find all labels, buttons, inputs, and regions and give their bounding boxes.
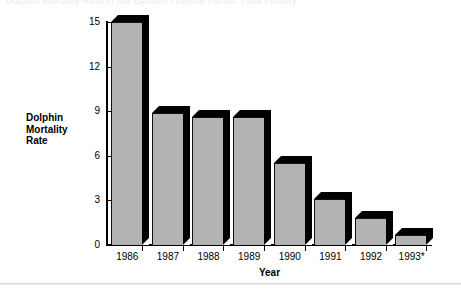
bar-side-face — [386, 211, 393, 245]
bar — [395, 228, 433, 245]
y-tick-label: 0 — [94, 240, 100, 250]
bar-side-face — [264, 110, 271, 245]
bar-front-face — [111, 22, 142, 245]
y-tick-label: 9 — [94, 106, 100, 116]
cut-off-title: Dolphin Mortality Rate in the Eastern Tr… — [0, 0, 461, 7]
bar-side-face — [345, 192, 352, 245]
bar-front-face — [355, 218, 386, 245]
chart-figure: Dolphin Mortality Rate in the Eastern Tr… — [0, 0, 461, 291]
y-axis-title-line-2: Mortality — [26, 124, 68, 136]
bar — [355, 211, 393, 245]
bar-front-face — [395, 235, 426, 245]
y-axis-title-line-1: Dolphin — [26, 112, 68, 124]
bar-side-face — [426, 228, 433, 245]
bar-front-face — [192, 117, 223, 245]
x-tick-label: 1988 — [188, 251, 229, 262]
x-tick-label: 1989 — [229, 251, 270, 262]
bar-side-face — [183, 106, 190, 245]
x-axis-tick-labels: 19861987198819891990199119921993* — [107, 251, 432, 265]
x-tick-label: 1990 — [270, 251, 311, 262]
bar — [111, 15, 149, 245]
bar-side-face — [142, 15, 149, 245]
y-tick-label: 12 — [89, 62, 100, 72]
y-tick-label: 3 — [94, 195, 100, 205]
bar-side-face — [305, 156, 312, 245]
bar — [192, 110, 230, 245]
bar — [233, 110, 271, 245]
bar-front-face — [314, 199, 345, 245]
x-tick-label: 1992 — [351, 251, 392, 262]
bar-front-face — [152, 113, 183, 245]
bar-front-face — [233, 117, 264, 245]
x-axis-title: Year — [107, 267, 432, 278]
bar-front-face — [274, 163, 305, 245]
y-axis-tick-labels: 03691215 — [78, 22, 100, 245]
bottom-divider-shadow — [0, 284, 461, 285]
bar-side-face — [223, 110, 230, 245]
x-tick-label: 1986 — [107, 251, 148, 262]
x-tick-label: 1993* — [391, 251, 432, 262]
y-tick-mark — [106, 245, 112, 246]
y-tick-label: 15 — [89, 17, 100, 27]
y-tick-label: 6 — [94, 151, 100, 161]
y-axis-title-line-3: Rate — [26, 135, 68, 147]
bar — [274, 156, 312, 245]
x-tick-label: 1991 — [310, 251, 351, 262]
x-tick-label: 1987 — [148, 251, 189, 262]
bar — [314, 192, 352, 245]
bar — [152, 106, 190, 245]
plot-area — [107, 22, 432, 245]
y-axis-title: Dolphin Mortality Rate — [26, 112, 68, 147]
